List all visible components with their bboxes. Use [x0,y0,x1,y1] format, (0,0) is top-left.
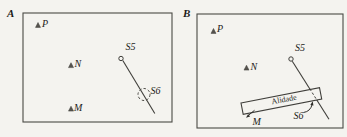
point-marker-p-b [211,29,216,34]
station-label-s6-b: S6 [294,111,304,121]
point-label-n-b: N [251,62,258,72]
point-marker-n-a [69,63,74,68]
point-marker-p-a [36,23,41,28]
point-label-m-b: M [253,117,261,127]
point-label-p-b: P [217,24,223,34]
point-label-p-a: P [42,19,48,29]
arrow-to-s6-stem [304,104,313,113]
panel-b-label: B [183,8,190,19]
station-circle-s5-a [119,56,123,60]
survey-figure: A P N M S5 S6 B P N M S5 S6 Alidade [0,0,347,137]
station-circle-s5-b [289,57,293,61]
panel-a-label: A [7,8,14,19]
point-label-n-a: N [75,59,82,69]
arrow-to-s6-head [310,101,313,105]
station-label-s5-a: S5 [126,42,136,52]
point-label-m-a: M [74,103,82,113]
station-label-s5-b: S5 [295,43,305,53]
station-label-s6-a: S6 [151,86,161,96]
dashed-circle-s6-a [138,89,150,101]
point-marker-m-a [69,106,74,111]
point-marker-n-b [244,65,249,70]
